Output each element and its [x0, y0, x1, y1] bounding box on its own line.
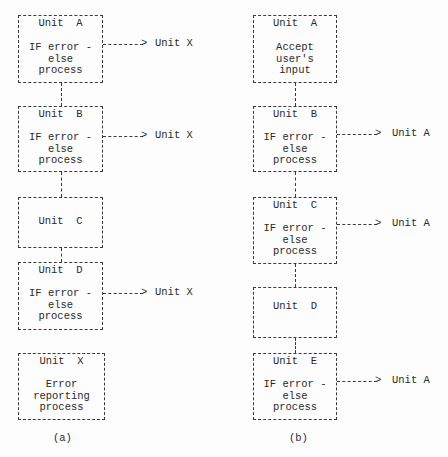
arrow-target: Unit A: [392, 218, 430, 229]
arrowhead-icon: >: [375, 218, 381, 229]
arrow-target: Unit X: [155, 130, 193, 141]
arrowhead-icon: >: [141, 287, 147, 298]
unit-d-box-a: Unit D IF error - else process: [18, 262, 103, 330]
connector: [61, 248, 62, 262]
error-arrow: [337, 381, 377, 382]
arrow-target: Unit A: [392, 375, 430, 386]
unit-e-box-b: Unit E IF error - else process: [253, 353, 337, 420]
connector: [295, 338, 296, 353]
unit-title: Unit B: [254, 109, 336, 121]
unit-title: Unit A: [19, 18, 102, 30]
arrowhead-icon: >: [141, 130, 147, 141]
unit-body: IF error - else process: [19, 42, 102, 77]
unit-title: Unit C: [19, 216, 102, 228]
unit-body: IF error - else process: [254, 379, 336, 414]
arrowhead-icon: >: [375, 128, 381, 139]
unit-b-box-a: Unit B IF error - else process: [18, 106, 103, 172]
diagram-label-a: (a): [53, 432, 72, 444]
arrowhead-icon: >: [375, 375, 381, 386]
error-arrow: [103, 136, 143, 137]
error-arrow: [103, 44, 143, 45]
error-arrow: [103, 293, 143, 294]
unit-body: IF error - else process: [254, 132, 336, 167]
unit-b-box-b: Unit B IF error - else process: [253, 106, 337, 172]
unit-a-box-b: Unit A Accept user's input: [253, 15, 337, 83]
connector: [295, 83, 296, 106]
unit-body: IF error - else process: [19, 288, 102, 323]
unit-body: IF error - else process: [19, 132, 102, 167]
unit-a-box-a: Unit A IF error - else process: [18, 15, 103, 83]
unit-body: IF error - else process: [254, 223, 336, 258]
arrow-target: Unit X: [155, 38, 193, 49]
connector: [61, 172, 62, 197]
unit-c-box-b: Unit C IF error - else process: [253, 197, 337, 264]
error-arrow: [337, 224, 377, 225]
unit-title: Unit D: [254, 301, 336, 313]
unit-c-box-a: Unit C: [18, 197, 103, 248]
arrow-target: Unit A: [392, 128, 430, 139]
connector: [295, 172, 296, 197]
diagram-label-b: (b): [289, 432, 308, 444]
unit-title: Unit C: [254, 200, 336, 212]
arrow-target: Unit X: [155, 287, 193, 298]
unit-d-box-b: Unit D: [253, 287, 337, 338]
unit-body: Error reporting process: [19, 379, 104, 414]
unit-title: Unit E: [254, 356, 336, 368]
unit-title: Unit A: [254, 18, 336, 30]
arrowhead-icon: >: [141, 38, 147, 49]
unit-x-box-a: Unit X Error reporting process: [18, 353, 105, 420]
connector: [61, 83, 62, 106]
unit-title: Unit B: [19, 109, 102, 121]
unit-title: Unit D: [19, 265, 102, 277]
error-arrow: [337, 134, 377, 135]
unit-title: Unit X: [19, 356, 104, 368]
connector: [295, 264, 296, 287]
unit-body: Accept user's input: [254, 42, 336, 77]
